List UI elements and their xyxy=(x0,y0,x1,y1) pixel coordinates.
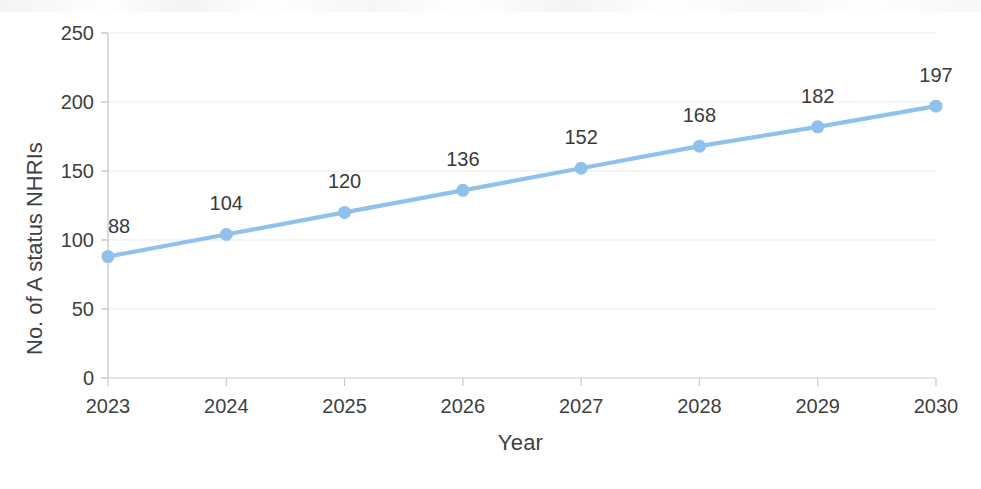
x-tick-label: 2028 xyxy=(677,395,722,418)
data-point-label: 88 xyxy=(108,215,130,238)
x-tick-label: 2030 xyxy=(914,395,959,418)
x-tick-label: 2029 xyxy=(795,395,840,418)
data-point-marker xyxy=(575,162,588,175)
y-tick-label: 250 xyxy=(40,22,94,45)
x-tick-label: 2024 xyxy=(204,395,249,418)
y-tick-label: 150 xyxy=(40,160,94,183)
data-point-label: 136 xyxy=(446,148,479,171)
data-point-marker xyxy=(811,120,824,133)
y-tick-label: 100 xyxy=(40,229,94,252)
data-point-marker xyxy=(456,184,469,197)
y-tick-label: 0 xyxy=(40,367,94,390)
data-point-label: 152 xyxy=(564,126,597,149)
y-tick-label: 50 xyxy=(40,298,94,321)
data-point-marker xyxy=(102,250,115,263)
data-point-label: 168 xyxy=(683,104,716,127)
x-tick-label: 2025 xyxy=(322,395,367,418)
data-point-marker xyxy=(220,228,233,241)
x-tick-label: 2027 xyxy=(559,395,604,418)
data-point-label: 182 xyxy=(801,85,834,108)
data-point-label: 120 xyxy=(328,170,361,193)
data-point-marker xyxy=(930,100,943,113)
line-chart: No. of A status NHRIs Year 0501001502002… xyxy=(0,0,981,489)
data-point-marker xyxy=(693,140,706,153)
data-point-label: 197 xyxy=(919,64,952,87)
y-tick-label: 200 xyxy=(40,91,94,114)
x-tick-label: 2026 xyxy=(441,395,486,418)
data-point-marker xyxy=(338,206,351,219)
data-point-label: 104 xyxy=(210,192,243,215)
x-tick-label: 2023 xyxy=(86,395,131,418)
